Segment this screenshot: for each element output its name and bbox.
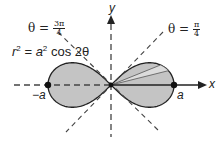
- angle-left-fraction: 3π4: [53, 20, 65, 37]
- eq-equals: =: [21, 44, 36, 59]
- point-a-label: a: [177, 89, 184, 101]
- point-neg-a-label: −a: [32, 89, 46, 101]
- angle-left-label: θ = 3π4: [28, 20, 65, 37]
- angle-right-fraction: π4: [193, 21, 200, 38]
- angle-left-den: 4: [53, 29, 65, 37]
- y-axis-arrow-icon: [107, 15, 115, 24]
- angle-right-den: 4: [193, 30, 200, 38]
- angle-right-label: θ = π4: [168, 21, 200, 38]
- eq-rhs-var: a: [36, 44, 43, 59]
- eq-rhs-func: cos 2θ: [47, 44, 89, 59]
- x-axis-arrow-icon: [198, 81, 207, 89]
- lemniscate-diagram: θ = 3π4 θ = π4 r2 = a2 cos 2θ y x a −a: [0, 0, 221, 142]
- angle-left-prefix: θ =: [28, 21, 53, 35]
- origin-point: [109, 83, 114, 88]
- angle-right-prefix: θ =: [168, 22, 193, 36]
- y-axis-label: y: [109, 2, 115, 14]
- equation-label: r2 = a2 cos 2θ: [12, 45, 89, 58]
- x-axis-label: x: [209, 78, 215, 90]
